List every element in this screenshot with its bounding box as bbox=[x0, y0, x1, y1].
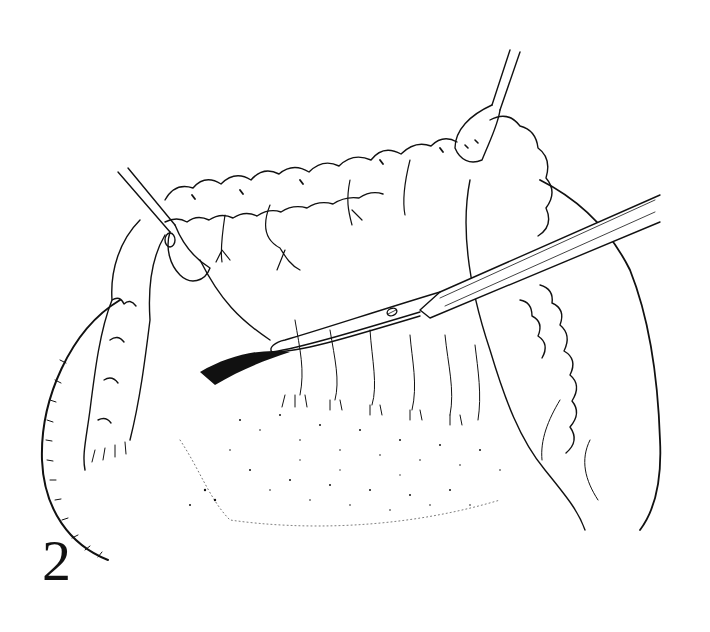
left-fatty-border bbox=[84, 220, 165, 470]
right-clamp bbox=[455, 50, 520, 162]
left-tissue-fold bbox=[42, 300, 120, 560]
figure-label: 2 bbox=[42, 532, 71, 590]
attachment-bands bbox=[282, 320, 480, 425]
stippled-surface-edge bbox=[180, 440, 500, 526]
omentum-fatty-border bbox=[165, 139, 457, 222]
surgical-illustration bbox=[0, 0, 710, 632]
shadow-region bbox=[200, 351, 290, 385]
stippled-surface bbox=[189, 414, 501, 511]
figure: 2 bbox=[0, 0, 710, 632]
right-fatty-border bbox=[490, 116, 598, 500]
